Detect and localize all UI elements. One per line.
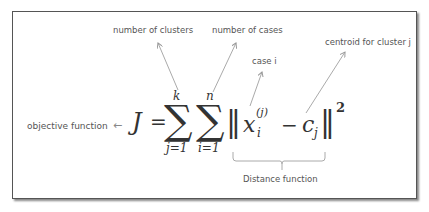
formula-x: x (243, 112, 255, 137)
arrow-cases (213, 43, 236, 92)
label-centroid: centroid for cluster j (325, 37, 411, 47)
sigma-icon: ∑ (196, 100, 225, 140)
formula-lhs: J (132, 108, 142, 136)
arrow-left-icon: ← (113, 119, 122, 132)
norm-close: ‖ (320, 104, 335, 139)
formula-c: c (302, 112, 314, 137)
label-case-i: case i (252, 56, 277, 66)
label-number-of-clusters: number of clusters (113, 25, 193, 35)
label-distance-function: Distance function (243, 174, 318, 184)
formula-power: 2 (336, 100, 345, 115)
label-objective-function: objective function (27, 121, 108, 131)
label-number-of-cases: number of cases (212, 25, 283, 35)
arrow-clusters (158, 43, 178, 90)
formula-x-sub: i (257, 126, 261, 140)
sum2-lower: i=1 (198, 141, 220, 155)
sigma-icon: ∑ (164, 100, 193, 140)
formula-x-sup: (j) (256, 106, 268, 119)
formula-minus: − (281, 113, 298, 137)
norm-open: ‖ (226, 104, 241, 139)
sum1-lower: j=1 (166, 141, 187, 155)
arrow-case-i (250, 72, 262, 106)
formula-c-sub: j (314, 126, 318, 140)
distance-bracket (233, 152, 325, 164)
